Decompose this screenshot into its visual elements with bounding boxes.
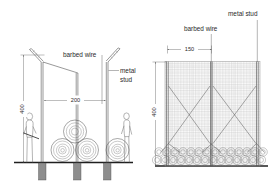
- coil-top: [64, 120, 87, 143]
- fence-mesh-overlay: [165, 62, 260, 167]
- footing-group: [39, 163, 112, 180]
- dimension-spacing-150: 150: [168, 45, 212, 54]
- footing-post-3: [104, 163, 112, 180]
- label-barbed-wire-left: barbed wire: [63, 51, 97, 58]
- footing-post-1: [39, 163, 47, 180]
- dimension-width-200: 200: [44, 96, 106, 105]
- label-barbed-wire-right: barbed wire: [184, 25, 218, 32]
- dimension-height-400-left: 400: [19, 55, 45, 163]
- metal-stud-post-right: [106, 48, 120, 163]
- right-front-elevation-view: 400 150 metal stud barbed wire: [151, 10, 269, 166]
- human-figure-standing: [121, 113, 131, 163]
- technical-drawing-canvas: 400 200 barbed wire metal stud: [0, 0, 277, 189]
- dimension-text-height-left: 400: [19, 104, 25, 113]
- left-side-elevation-view: 400 200 barbed wire metal stud: [14, 48, 136, 180]
- label-metal-stud-right: metal stud: [228, 10, 258, 17]
- dimension-text-height-right: 400: [151, 107, 157, 116]
- dimension-height-400-right: 400: [151, 62, 167, 166]
- dimension-text-spacing: 150: [185, 46, 194, 52]
- label-metal-stud-line1: metal: [120, 67, 136, 74]
- callout-metal-stud-left: metal stud: [109, 67, 136, 83]
- footing-post-2: [74, 163, 82, 180]
- human-figure-with-rifle: [23, 113, 39, 162]
- coil-right-outer: [106, 139, 129, 162]
- coil-bottom-right: [76, 139, 99, 162]
- concertina-coil-group: [51, 120, 129, 162]
- metal-stud-post-left: [30, 49, 44, 163]
- drawing-sheet: 400 200 barbed wire metal stud: [0, 0, 277, 189]
- metal-stud-post-middle: [43, 62, 78, 163]
- label-metal-stud-line2: stud: [120, 76, 133, 83]
- dimension-text-width: 200: [71, 97, 80, 103]
